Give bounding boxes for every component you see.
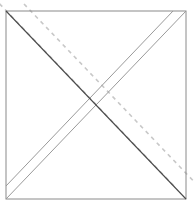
figure-container — [0, 0, 195, 208]
square-diagonals-diagram — [0, 0, 195, 208]
